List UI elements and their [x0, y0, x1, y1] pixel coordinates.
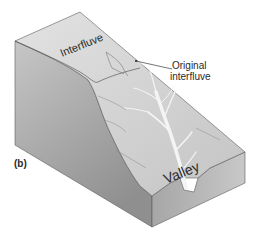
original-interfluve-label-line2: interfluve	[170, 71, 211, 82]
block-diagram-svg: Interfluve Original interfluve Valley (b…	[0, 0, 261, 242]
leader-dot	[135, 60, 137, 62]
block-diagram-figure: Interfluve Original interfluve Valley (b…	[0, 0, 261, 242]
original-interfluve-label-line1: Original	[172, 60, 206, 71]
panel-label: (b)	[14, 158, 27, 169]
